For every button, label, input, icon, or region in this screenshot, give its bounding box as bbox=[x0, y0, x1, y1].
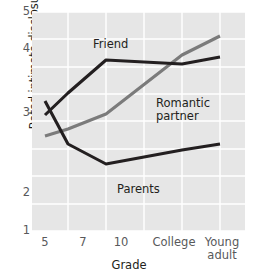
series-annotation-parents: Parents bbox=[117, 183, 160, 196]
x-tick-college: College bbox=[152, 236, 196, 249]
x-axis-title: Grade bbox=[0, 258, 258, 272]
x-tick-grade-10: 10 bbox=[110, 236, 132, 249]
chart-figure: Rated intimate disclosure 5 4 3 2 1 bbox=[0, 0, 258, 279]
series-annotation-romantic-partner: Romantic partner bbox=[156, 97, 210, 123]
x-tick-grade-5: 5 bbox=[36, 236, 54, 249]
series-annotation-friend: Friend bbox=[93, 38, 128, 51]
x-tick-grade-7: 7 bbox=[74, 236, 92, 249]
